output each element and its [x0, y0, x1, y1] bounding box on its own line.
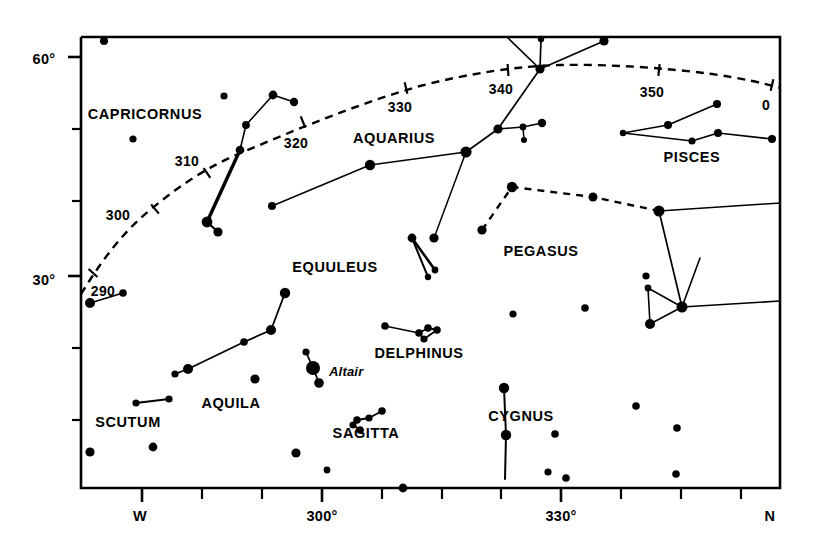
ecliptic-longitude-label: 350: [640, 85, 664, 99]
star-marker: [365, 160, 375, 170]
star-marker: [220, 92, 227, 99]
constellation-line: [505, 435, 506, 479]
star-marker: [425, 274, 431, 280]
star-name-label: Altair: [329, 365, 363, 378]
star-marker: [240, 338, 248, 346]
star-marker: [664, 121, 672, 129]
star-marker: [314, 378, 324, 388]
constellation-line: [623, 133, 772, 141]
altitude-axis-label: 30°: [33, 273, 56, 288]
constellation-line: [682, 301, 780, 307]
star-marker: [551, 430, 559, 438]
star-marker: [672, 470, 680, 478]
ecliptic-longitude-label: 330: [388, 100, 412, 114]
star-marker: [165, 395, 172, 402]
star-marker: [381, 322, 389, 330]
star-marker: [538, 119, 546, 127]
star-marker: [306, 361, 320, 375]
star-marker: [645, 319, 655, 329]
ecliptic-longitude-tick: [771, 79, 774, 91]
star-marker: [280, 288, 290, 298]
star-marker: [399, 484, 408, 493]
constellation-label: CYGNUS: [488, 409, 554, 424]
star-marker: [236, 146, 245, 155]
constellation-line: [659, 203, 780, 211]
star-marker: [129, 135, 136, 142]
ecliptic-longitude-tick: [204, 168, 211, 178]
star-marker: [408, 234, 417, 243]
star-marker: [119, 289, 127, 297]
constellation-label: PEGASUS: [503, 244, 578, 259]
constellation-line: [623, 104, 717, 133]
sky-map-canvas: [0, 0, 818, 550]
ecliptic-longitude-tick: [658, 64, 659, 76]
star-marker: [132, 399, 139, 406]
ecliptic-longitude-label: 320: [284, 136, 308, 150]
star-marker: [713, 100, 721, 108]
star-marker: [269, 91, 278, 100]
constellation-line: [682, 258, 700, 307]
ecliptic-tick-marks: [89, 64, 774, 277]
star-marker: [291, 448, 300, 457]
star-marker: [266, 325, 276, 335]
constellation-label: EQUULEUS: [292, 260, 377, 275]
star-marker: [501, 430, 511, 440]
constellation-label: SAGITTA: [333, 426, 400, 441]
ecliptic-longitude-label: 310: [175, 154, 199, 168]
star-marker: [507, 182, 517, 192]
star-marker: [493, 124, 502, 133]
azimuth-axis-label: 300°: [306, 509, 337, 524]
constellation-line-dashed: [482, 187, 659, 230]
constellation-line: [136, 399, 169, 403]
azimuth-axis-label: 330°: [545, 509, 576, 524]
star-marker: [183, 364, 193, 374]
constellation-label: SCUTUM: [95, 415, 161, 430]
constellation-line: [648, 288, 682, 307]
azimuth-axis-label: N: [765, 509, 776, 524]
ecliptic-longitude-label: 0: [762, 98, 770, 112]
star-marker: [202, 217, 213, 228]
constellation-label: DELPHINUS: [374, 346, 463, 361]
star-marker: [100, 37, 108, 45]
pegasus-dashed-lines: [482, 187, 659, 230]
ecliptic-longitude-label: 340: [489, 82, 513, 96]
star-marker: [632, 402, 640, 410]
star-marker: [477, 225, 486, 234]
star-marker: [544, 468, 551, 475]
star-marker: [429, 233, 438, 242]
constellation-label: AQUILA: [201, 396, 260, 411]
star-marker: [768, 135, 776, 143]
star-marker: [520, 124, 527, 131]
star-marker: [654, 206, 665, 217]
star-marker: [324, 467, 331, 474]
star-marker: [424, 324, 432, 332]
ecliptic-line: [81, 65, 780, 294]
constellation-line: [508, 38, 540, 69]
star-marker: [213, 227, 222, 236]
altitude-axis-ticks: [68, 57, 81, 420]
star-marker: [365, 414, 372, 421]
star-marker: [645, 285, 652, 292]
constellation-line: [659, 211, 682, 307]
star-marker: [420, 335, 427, 342]
azimuth-axis-label: W: [133, 509, 147, 524]
star-marker: [535, 64, 544, 73]
star-marker: [242, 121, 250, 129]
ecliptic-path: [81, 65, 780, 294]
star-marker: [415, 329, 423, 337]
star-marker: [509, 310, 516, 317]
star-marker: [171, 370, 178, 377]
star-marker: [538, 36, 544, 42]
star-marker: [589, 193, 598, 202]
star-marker: [432, 267, 439, 274]
star-marker: [268, 202, 276, 210]
altitude-axis-label: 60°: [33, 52, 56, 67]
azimuth-axis-ticks: [142, 488, 741, 502]
star-marker: [460, 146, 471, 157]
star-marker: [85, 447, 94, 456]
star-marker: [677, 302, 688, 313]
constellation-label: AQUARIUS: [353, 131, 435, 146]
star-marker: [85, 298, 95, 308]
star-marker: [562, 474, 570, 482]
star-marker: [714, 129, 722, 137]
